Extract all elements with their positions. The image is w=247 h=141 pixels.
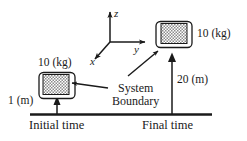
system-boundary-line-1: System: [112, 82, 159, 95]
system-boundary-label: System Boundary: [112, 82, 159, 107]
final-height-dimension: [168, 53, 176, 115]
final-mass-label: 10 (kg): [197, 27, 231, 39]
final-height-label: 20 (m): [177, 73, 208, 85]
x-axis: [95, 42, 110, 59]
final-height-arrowhead-up: [168, 53, 176, 63]
leader-to-initial-block: [72, 83, 108, 88]
system-boundary-line-2: Boundary: [112, 95, 159, 108]
initial-height-label: 1 (m): [8, 94, 33, 106]
figure-canvas: z y x 10 (kg) 10 (kg) 1 (m) 20 (m) Syste…: [0, 0, 247, 141]
initial-block: [39, 73, 75, 99]
initial-mass-label: 10 (kg): [38, 56, 72, 68]
axis-label-x: x: [90, 56, 95, 68]
leader-to-final-block: [128, 51, 158, 76]
final-block: [156, 22, 192, 48]
axis-label-z: z: [114, 8, 118, 20]
initial-time-label: Initial time: [29, 119, 84, 132]
final-time-label: Final time: [142, 119, 193, 132]
initial-block-hatch: [43, 75, 69, 95]
final-block-hatch: [161, 24, 187, 44]
axis-label-y: y: [134, 44, 139, 56]
